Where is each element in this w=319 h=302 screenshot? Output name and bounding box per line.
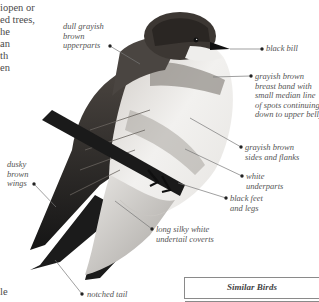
bill-shape [210,42,230,50]
label-breast-band: grayish brown breast band with small med… [255,72,319,120]
label-wings: dusky brown wings [7,160,28,189]
similar-birds-title: Similar Birds [185,282,319,292]
label-sides-flanks: grayish brown sides and flanks [245,143,299,162]
label-upperparts: dull grayish brown upperparts [63,22,104,51]
label-undertail-coverts: long silky white undertail coverts [156,225,214,244]
label-underparts: white underparts [246,172,283,191]
label-bill: black bill [266,44,298,54]
label-tail: notched tail [87,290,127,300]
label-feet-legs: black feet and legs [230,194,263,213]
similar-birds-panel: Similar Birds [184,277,319,299]
